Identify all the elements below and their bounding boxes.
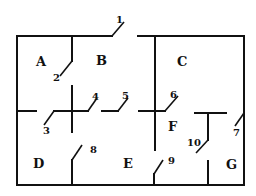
floor-plan-diagram: A B C D E F G 1 2 3 4 5 6 7 8 9 10	[0, 0, 256, 196]
doors	[44, 22, 244, 174]
room-label-e: E	[123, 156, 133, 171]
room-label-c: C	[177, 54, 187, 69]
door-label-1: 1	[116, 14, 123, 25]
door-label-5: 5	[122, 90, 129, 101]
door-label-6: 6	[170, 89, 177, 100]
room-label-b: B	[96, 53, 107, 68]
door-label-2: 2	[53, 72, 60, 83]
door-label-7: 7	[233, 127, 240, 138]
door-2	[60, 61, 72, 76]
door-label-8: 8	[90, 144, 97, 155]
door-label-10: 10	[187, 137, 201, 148]
room-label-g: G	[226, 157, 237, 172]
room-label-a: A	[35, 54, 47, 69]
door-label-3: 3	[43, 125, 50, 136]
room-label-f: F	[168, 119, 178, 134]
door-7	[235, 113, 244, 126]
door-8	[72, 145, 82, 160]
door-9	[154, 160, 163, 174]
door-label-4: 4	[92, 91, 99, 102]
room-label-d: D	[33, 156, 44, 171]
door-label-9: 9	[168, 155, 175, 166]
door-3	[44, 111, 54, 125]
interior-walls	[17, 36, 226, 185]
